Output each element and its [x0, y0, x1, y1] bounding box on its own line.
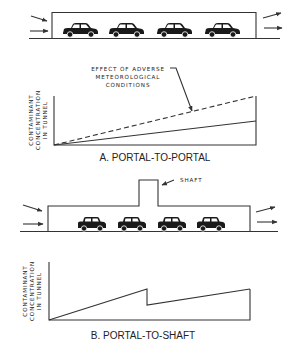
y-axis-label-a2: CONCENTRATION — [35, 90, 41, 150]
car-icon — [109, 23, 144, 37]
chart-b-axes — [49, 262, 250, 320]
y-axis-label-b2: CONCENTRATION — [29, 261, 35, 321]
outflow-arrows-b — [256, 207, 277, 222]
y-axis-label-a3: IN TUNNEL — [42, 101, 48, 139]
car-icon — [205, 23, 240, 37]
annotation-line-3: CONDITIONS — [106, 82, 151, 88]
car-icon — [78, 217, 106, 231]
chart-a: CONTAMINANT CONCENTRATION IN TUNNEL EFFE… — [28, 66, 256, 163]
car-icon — [197, 217, 225, 231]
shaft-label: SHAFT — [180, 177, 203, 183]
vehicles-a — [63, 23, 240, 37]
annotation-leader-arrow — [170, 68, 192, 111]
arrow-icon — [31, 16, 47, 21]
caption-a: A. PORTAL-TO-PORTAL — [100, 152, 211, 163]
y-axis-label-a1: CONTAMINANT — [28, 94, 34, 145]
arrow-icon — [23, 205, 42, 211]
car-icon — [63, 23, 98, 37]
car-icon — [158, 217, 186, 231]
y-axis-label-b1: CONTAMINANT — [22, 265, 28, 316]
inflow-arrows-a — [30, 16, 48, 31]
arrow-icon — [263, 13, 281, 18]
tunnel-ventilation-diagram: CONTAMINANT CONCENTRATION IN TUNNEL EFFE… — [0, 0, 296, 352]
annotation-line-2: METEOROLOGICAL — [96, 74, 161, 80]
adverse-conditions-line — [54, 96, 256, 145]
y-axis-label-b3: IN TUNNEL — [36, 272, 42, 310]
sawtooth-concentration-line — [49, 289, 250, 320]
car-icon — [118, 217, 146, 231]
tunnel-b: SHAFT — [20, 177, 278, 232]
vehicles-b — [78, 217, 225, 231]
chart-b: CONTAMINANT CONCENTRATION IN TUNNEL B. P… — [22, 261, 250, 341]
inflow-arrows-b — [23, 205, 43, 224]
outflow-arrows-a — [263, 13, 282, 28]
car-icon — [157, 23, 192, 37]
annotation-line-1: EFFECT OF ADVERSE — [91, 66, 165, 72]
caption-b: B. PORTAL-TO-SHAFT — [91, 330, 195, 341]
shaft-pointer-arrow — [162, 180, 174, 185]
arrow-icon — [256, 207, 275, 212]
tunnel-a — [29, 13, 282, 39]
normal-conditions-line — [54, 121, 256, 145]
